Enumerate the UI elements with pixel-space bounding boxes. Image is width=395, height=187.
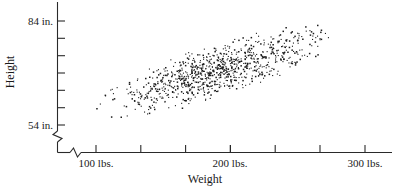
x-tick-label-200: 200 lbs.	[213, 157, 248, 169]
x-axis-title: Weight	[188, 172, 223, 186]
y-tick-label-54: 54 in.	[28, 119, 53, 131]
chart-canvas: 84 in. 54 in. 100 lbs. 200 lbs. 300 lbs.…	[0, 0, 395, 187]
x-axis-break-icon	[70, 148, 81, 157]
y-axis-break-icon	[53, 131, 62, 142]
y-tick-label-84: 84 in.	[28, 15, 53, 27]
scatter-point-cloud	[96, 25, 329, 118]
y-axis-title: Height	[3, 55, 17, 88]
scatter-plot-figure: 84 in. 54 in. 100 lbs. 200 lbs. 300 lbs.…	[0, 0, 395, 187]
x-tick-label-100: 100 lbs.	[79, 157, 114, 169]
x-tick-label-300: 300 lbs.	[348, 157, 383, 169]
